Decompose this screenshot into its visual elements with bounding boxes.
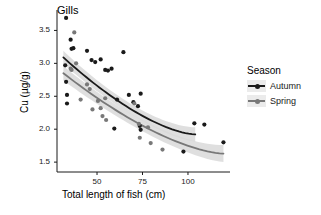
data-point-autumn: [121, 50, 125, 54]
data-point-autumn: [115, 97, 119, 101]
data-point-autumn: [139, 128, 143, 132]
data-point-spring: [104, 118, 108, 122]
data-point-autumn: [112, 126, 116, 130]
x-axis-label: Total length of fish (cm): [62, 190, 165, 200]
data-point-spring: [100, 114, 104, 118]
data-point-spring: [74, 61, 78, 65]
legend-key-icon: [247, 80, 266, 92]
data-point-autumn: [65, 93, 69, 97]
legend-title: Season: [247, 66, 317, 76]
data-point-autumn: [64, 80, 68, 84]
data-point-spring: [146, 125, 150, 129]
x-tick-label: 100: [177, 178, 199, 186]
data-point-spring: [69, 68, 73, 72]
chart-title: Gills: [57, 5, 78, 16]
legend-key-icon: [247, 95, 266, 107]
data-point-spring: [137, 122, 141, 126]
data-point-autumn: [85, 49, 89, 53]
data-point-autumn: [71, 46, 75, 50]
chart-figure: Gills Total length of fish (cm) Cu (µg/g…: [0, 0, 321, 215]
legend-item-spring[interactable]: Spring: [247, 95, 317, 107]
data-point-autumn: [99, 57, 103, 61]
data-point-autumn: [106, 69, 110, 73]
data-point-autumn: [65, 101, 69, 105]
legend-dot-icon: [255, 99, 260, 104]
y-tick-label: 3.0: [28, 59, 50, 67]
data-point-autumn: [93, 60, 97, 64]
data-point-autumn: [139, 92, 143, 96]
data-point-autumn: [64, 16, 68, 20]
data-point-spring: [96, 99, 100, 103]
data-point-spring: [79, 97, 83, 101]
legend-item-label: Spring: [270, 97, 296, 106]
legend-dot-icon: [255, 84, 260, 89]
x-tick-label: 75: [132, 178, 154, 186]
data-point-spring: [149, 141, 153, 145]
data-point-spring: [72, 30, 76, 34]
y-tick-label: 3.5: [28, 26, 50, 34]
y-tick-label: 2.5: [28, 92, 50, 100]
data-point-autumn: [63, 63, 67, 67]
data-point-spring: [88, 87, 92, 91]
y-tick-label: 2.0: [28, 125, 50, 133]
data-point-autumn: [221, 140, 225, 144]
data-point-spring: [138, 136, 142, 140]
data-point-autumn: [127, 93, 131, 97]
data-point-autumn: [69, 38, 73, 42]
legend-item-label: Autumn: [270, 82, 301, 91]
legend-entries: AutumnSpring: [247, 80, 317, 107]
regression-lines: [63, 57, 223, 153]
y-tick-label: 1.5: [28, 158, 50, 166]
data-point-spring: [132, 101, 136, 105]
data-point-autumn: [202, 122, 206, 126]
legend: Season AutumnSpring: [247, 66, 317, 110]
data-point-spring: [160, 148, 164, 152]
data-point-autumn: [109, 67, 113, 71]
x-tick-label: 50: [86, 178, 108, 186]
data-point-autumn: [192, 121, 196, 125]
data-point-autumn: [136, 104, 140, 108]
data-point-spring: [99, 106, 103, 110]
data-point-autumn: [89, 58, 93, 62]
data-point-autumn: [181, 149, 185, 153]
data-point-spring: [103, 96, 107, 100]
data-points: [63, 16, 225, 154]
data-point-spring: [90, 107, 94, 111]
confidence-ribbons: [63, 51, 223, 162]
data-point-spring: [85, 82, 89, 86]
legend-item-autumn[interactable]: Autumn: [247, 80, 317, 92]
